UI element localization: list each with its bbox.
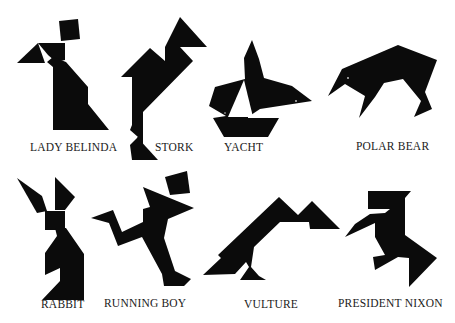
label-vulture: VULTURE	[244, 299, 298, 311]
label-president-nixon: PRESIDENT NIXON	[338, 298, 443, 310]
figure-running-boy	[91, 171, 194, 286]
figure-president-nixon	[345, 191, 437, 287]
figure-vulture	[203, 197, 340, 280]
figure-yacht	[209, 40, 312, 137]
label-rabbit: RABBIT	[41, 299, 84, 311]
label-stork: STORK	[155, 142, 194, 154]
figure-stork	[121, 17, 207, 160]
figure-rabbit	[17, 177, 84, 300]
figure-lady-belinda	[17, 19, 109, 130]
label-lady-belinda: LADY BELINDA	[30, 142, 117, 154]
tangram-figures	[0, 0, 455, 323]
figure-polar-bear	[328, 45, 437, 118]
label-running-boy: RUNNING BOY	[104, 298, 186, 310]
label-yacht: YACHT	[224, 142, 263, 154]
label-polar-bear: POLAR BEAR	[356, 141, 429, 153]
